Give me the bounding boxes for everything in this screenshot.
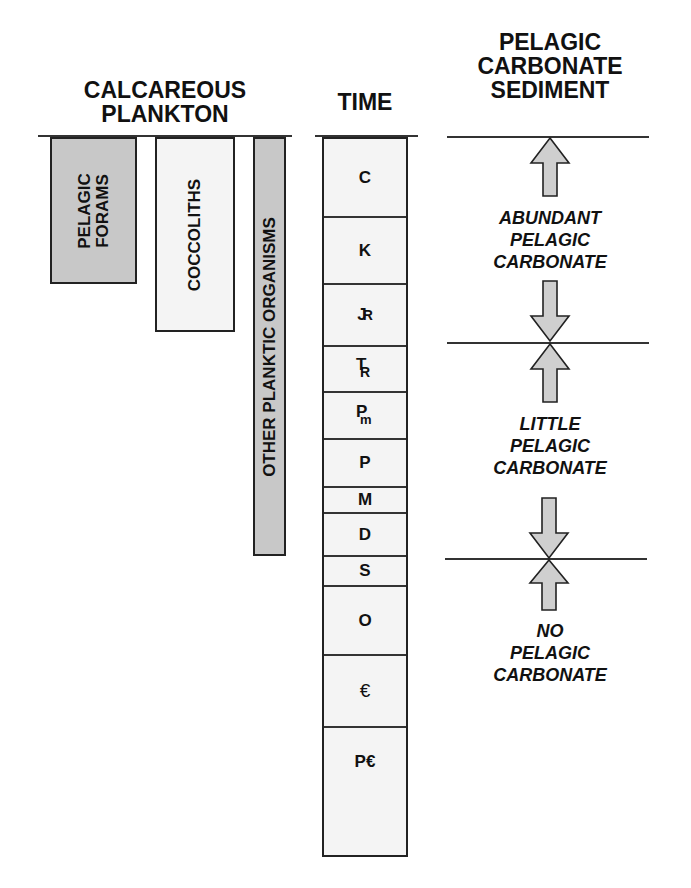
sediment-header-line3: SEDIMENT — [450, 78, 650, 102]
sediment-header: PELAGIC CARBONATE SEDIMENT — [450, 30, 650, 102]
sediment-header-line2: CARBONATE — [450, 54, 650, 78]
arrow-up-icon — [530, 137, 570, 197]
period-cambrian: € — [324, 654, 406, 726]
arrow-down-icon — [529, 497, 569, 559]
period-silurian: S — [324, 555, 406, 585]
arrow-down-icon — [530, 280, 570, 342]
period-pennsylvanian: P — [324, 438, 406, 486]
zone-abundant-label: ABUNDANT PELAGIC CARBONATE — [460, 207, 640, 273]
sediment-header-line1: PELAGIC — [450, 30, 650, 54]
coccoliths-bar: COCCOLITHS — [155, 137, 235, 332]
period-ordovician: O — [324, 585, 406, 654]
other-planktic-label: OTHER PLANKTIC ORGANISMS — [261, 217, 279, 477]
plankton-header-line2: PLANKTON — [40, 102, 290, 126]
arrow-up-icon — [530, 343, 570, 403]
period-mississippian: M — [324, 486, 406, 512]
time-column: C K JR T R P m P M D S O € P€ — [322, 137, 408, 857]
period-permian: P m — [324, 391, 406, 438]
plankton-header-line1: CALCAREOUS — [40, 78, 290, 102]
other-planktic-bar: OTHER PLANKTIC ORGANISMS — [253, 137, 286, 556]
period-cretaceous: K — [324, 216, 406, 283]
pelagic-forams-bar: PELAGIC FORAMS — [50, 137, 137, 284]
period-precambrian: P€ — [324, 726, 406, 855]
period-devonian: D — [324, 512, 406, 555]
plankton-header: CALCAREOUS PLANKTON — [40, 78, 290, 126]
time-header-label: TIME — [315, 90, 415, 114]
zone-little-label: LITTLE PELAGIC CARBONATE — [460, 413, 640, 479]
time-header: TIME — [315, 90, 415, 114]
zone-none-label: NO PELAGIC CARBONATE — [460, 620, 640, 686]
period-cenozoic: C — [324, 139, 406, 216]
arrow-up-icon — [529, 559, 569, 611]
period-jurassic: JR — [324, 283, 406, 345]
pelagic-forams-label: PELAGIC FORAMS — [76, 173, 112, 249]
coccoliths-label: COCCOLITHS — [186, 178, 204, 290]
period-triassic: T R — [324, 345, 406, 391]
